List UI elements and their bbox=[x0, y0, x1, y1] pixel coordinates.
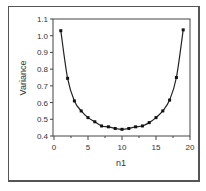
data-point-marker bbox=[155, 116, 158, 119]
data-point-marker bbox=[168, 99, 171, 102]
plot-border bbox=[53, 19, 190, 136]
data-point-marker bbox=[66, 77, 69, 80]
x-axis-title: n1 bbox=[116, 158, 126, 168]
data-point-marker bbox=[80, 109, 83, 112]
data-point-marker bbox=[127, 127, 130, 130]
data-point-marker bbox=[114, 127, 117, 130]
x-tick-label: 15 bbox=[152, 143, 161, 152]
data-point-marker bbox=[141, 124, 144, 127]
data-point-marker bbox=[182, 28, 185, 31]
y-axis: 0.40.50.60.70.80.91.01.1 bbox=[37, 15, 53, 141]
y-tick-label: 1.1 bbox=[37, 15, 49, 24]
plot-area bbox=[53, 19, 190, 136]
x-tick-label: 5 bbox=[86, 143, 91, 152]
data-series bbox=[59, 28, 184, 130]
y-tick-label: 0.5 bbox=[37, 115, 49, 124]
data-point-marker bbox=[107, 125, 110, 128]
y-tick-label: 0.9 bbox=[37, 48, 49, 57]
data-point-marker bbox=[175, 76, 178, 79]
data-point-marker bbox=[59, 29, 62, 32]
y-axis-title: Variance bbox=[18, 61, 28, 96]
data-point-marker bbox=[134, 125, 137, 128]
y-tick-label: 0.4 bbox=[37, 132, 49, 141]
x-tick-label: 0 bbox=[52, 143, 57, 152]
x-axis: 05101520 bbox=[52, 136, 195, 152]
y-tick-label: 0.7 bbox=[37, 82, 49, 91]
variance-chart: 0.40.50.60.70.80.91.01.1 05101520 n1 Var… bbox=[0, 0, 206, 191]
x-tick-label: 10 bbox=[118, 143, 127, 152]
series-line bbox=[61, 30, 183, 129]
x-tick-label: 20 bbox=[186, 143, 195, 152]
data-point-marker bbox=[87, 116, 90, 119]
data-point-marker bbox=[100, 124, 103, 127]
y-tick-label: 0.8 bbox=[37, 65, 49, 74]
data-point-marker bbox=[148, 121, 151, 124]
data-point-marker bbox=[73, 99, 76, 102]
data-point-marker bbox=[121, 128, 124, 131]
y-tick-label: 0.6 bbox=[37, 99, 49, 108]
y-tick-label: 1.0 bbox=[37, 32, 49, 41]
data-point-marker bbox=[161, 109, 164, 112]
data-point-marker bbox=[93, 120, 96, 123]
